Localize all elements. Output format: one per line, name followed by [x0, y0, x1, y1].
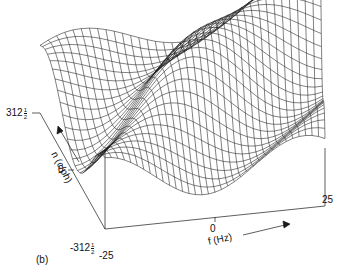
surface-plot [0, 0, 345, 270]
f-tick-label-min: -25 [99, 251, 113, 261]
f-tick-label-max: 25 [322, 195, 333, 205]
panel-label: (b) [36, 255, 48, 265]
f-axis-arrow-line [243, 225, 285, 235]
wireframe-mesh [40, 0, 325, 195]
axis-frame [32, 113, 325, 235]
n-tick-label-bottom: -31212 [70, 242, 94, 255]
n-tick-label-top: 31212 [6, 107, 27, 120]
f-tick-label-zero: 0 [210, 224, 216, 234]
f-axis-arrowhead [283, 221, 290, 228]
n-axis-arrowhead [57, 126, 63, 134]
n-axis-line [40, 113, 105, 229]
